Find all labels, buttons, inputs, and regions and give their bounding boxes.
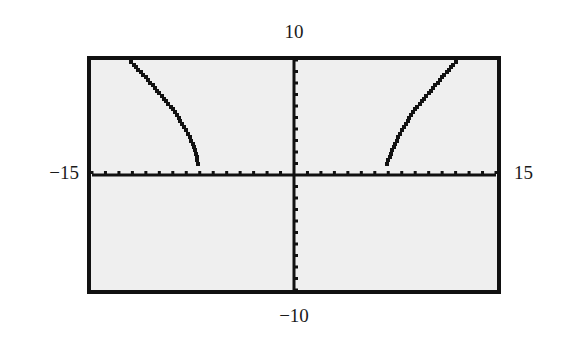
y-tick xyxy=(295,59,298,62)
y-tick xyxy=(295,105,298,108)
y-tick xyxy=(295,231,298,234)
calculator-graph-screen xyxy=(0,0,561,346)
curve-pixel xyxy=(385,162,389,166)
x-tick xyxy=(468,171,471,174)
x-tick xyxy=(104,171,107,174)
x-tick xyxy=(131,171,134,174)
x-tick xyxy=(158,171,161,174)
x-tick xyxy=(441,171,444,174)
x-tick xyxy=(185,171,188,174)
y-tick xyxy=(295,116,298,119)
curve-pixel xyxy=(196,162,200,166)
y-tick xyxy=(295,128,298,131)
x-tick xyxy=(387,171,390,174)
curve-pixel xyxy=(184,128,188,132)
x-tick xyxy=(266,171,269,174)
x-tick xyxy=(495,171,498,174)
y-tick xyxy=(295,197,298,200)
x-tick xyxy=(306,171,309,174)
y-tick xyxy=(295,243,298,246)
x-tick xyxy=(225,171,228,174)
y-tick xyxy=(295,289,298,292)
x-tick xyxy=(373,171,376,174)
curve-pixel xyxy=(398,132,402,136)
x-tick xyxy=(454,171,457,174)
x-tick xyxy=(239,171,242,174)
y-tick xyxy=(295,151,298,154)
curve-pixel xyxy=(454,60,458,64)
x-tick xyxy=(333,171,336,174)
x-tick xyxy=(481,171,484,174)
x-tick xyxy=(252,171,255,174)
x-tick xyxy=(198,171,201,174)
y-tick xyxy=(295,139,298,142)
y-tick xyxy=(295,82,298,85)
y-tick xyxy=(295,277,298,280)
x-tick xyxy=(91,171,94,174)
x-tick xyxy=(414,171,417,174)
x-tick xyxy=(279,171,282,174)
curve-pixel xyxy=(188,135,192,139)
x-tick xyxy=(144,171,147,174)
y-tick xyxy=(295,254,298,257)
y-tick xyxy=(295,266,298,269)
x-tick xyxy=(427,171,430,174)
y-tick xyxy=(295,208,298,211)
x-tick xyxy=(319,171,322,174)
x-tick xyxy=(400,171,403,174)
y-tick xyxy=(295,220,298,223)
curve-pixel xyxy=(193,148,197,152)
x-tick xyxy=(171,171,174,174)
curve-pixel xyxy=(195,158,199,162)
y-tick xyxy=(295,93,298,96)
x-tick xyxy=(346,171,349,174)
y-tick xyxy=(295,162,298,165)
curve-pixel xyxy=(389,152,393,156)
x-tick xyxy=(117,171,120,174)
x-tick xyxy=(212,171,215,174)
curve-pixel xyxy=(395,139,399,143)
y-tick xyxy=(295,70,298,73)
y-tick xyxy=(295,185,298,188)
x-tick xyxy=(360,171,363,174)
